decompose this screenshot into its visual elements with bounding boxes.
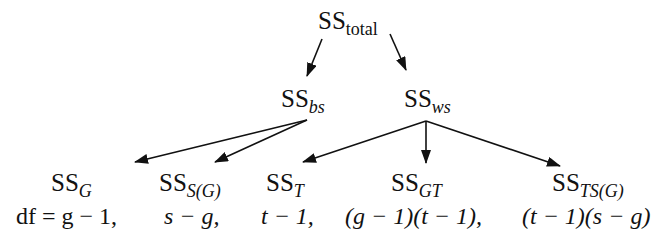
arrow-total-ws bbox=[390, 34, 406, 70]
arrow-bs-SG bbox=[215, 120, 307, 162]
node-base: SS bbox=[391, 169, 419, 196]
arrow-bs-G bbox=[135, 120, 307, 162]
node-ss-T: SST bbox=[266, 170, 304, 200]
node-base: SS bbox=[266, 169, 294, 196]
node-ss-SG: SSS(G) bbox=[159, 170, 221, 200]
node-ss-bs: SSbs bbox=[281, 86, 325, 116]
arrow-ws-TSG bbox=[426, 121, 560, 166]
node-sub: S(G) bbox=[187, 181, 221, 201]
df-G: df = g − 1, bbox=[16, 204, 117, 228]
node-ss-total: SStotal bbox=[318, 8, 378, 38]
node-base: SS bbox=[51, 169, 79, 196]
node-ss-GT: SSGT bbox=[391, 170, 442, 200]
df-SG: s − g, bbox=[164, 204, 220, 228]
df-GT: (g − 1)(t − 1), bbox=[345, 204, 482, 228]
node-base: SS bbox=[159, 169, 187, 196]
df-T: t − 1, bbox=[261, 204, 314, 228]
node-sub: TS(G) bbox=[580, 181, 624, 201]
node-sub: G bbox=[79, 181, 92, 201]
node-sub: ws bbox=[432, 97, 451, 117]
node-sub: total bbox=[346, 19, 378, 39]
node-ss-G: SSG bbox=[51, 170, 92, 200]
node-sub: GT bbox=[419, 181, 442, 201]
node-sub: T bbox=[294, 181, 304, 201]
node-base: SS bbox=[552, 169, 580, 196]
node-base: SS bbox=[281, 85, 309, 112]
arrow-ws-T bbox=[303, 121, 426, 162]
node-base: SS bbox=[404, 85, 432, 112]
df-TSG: (t − 1)(s − g) bbox=[522, 204, 650, 228]
arrow-total-bs bbox=[307, 39, 322, 76]
ss-partition-diagram: SStotal SSbs SSws SSG SSS(G) SST SSGT SS… bbox=[0, 0, 665, 245]
node-sub: bs bbox=[309, 97, 325, 117]
node-ss-ws: SSws bbox=[404, 86, 451, 116]
node-base: SS bbox=[318, 7, 346, 34]
node-ss-TSG: SSTS(G) bbox=[552, 170, 624, 200]
